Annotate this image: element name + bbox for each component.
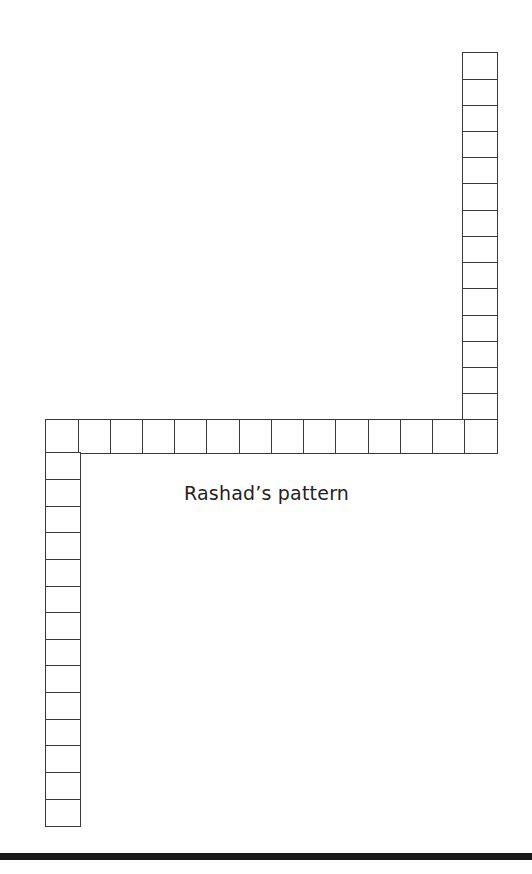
pattern-cell <box>462 393 497 421</box>
pattern-cell <box>462 315 497 343</box>
pattern-cell <box>45 532 80 560</box>
pattern-cell <box>174 419 208 453</box>
pattern-cell <box>45 799 80 827</box>
pattern-cell <box>45 506 80 534</box>
pattern-cell <box>335 419 369 453</box>
pattern-cell <box>462 105 497 133</box>
pattern-cell <box>45 419 79 453</box>
pattern-cell <box>462 236 497 264</box>
pattern-cell <box>303 419 337 453</box>
pattern-caption: Rashad’s pattern <box>184 482 349 504</box>
pattern-cell <box>45 719 80 747</box>
pattern-cell <box>462 52 497 80</box>
pattern-cell <box>78 419 112 453</box>
pattern-cell <box>45 586 80 614</box>
pattern-cell <box>45 665 80 693</box>
pattern-cell <box>462 131 497 159</box>
pattern-cell <box>142 419 176 453</box>
pattern-cell <box>368 419 402 453</box>
pattern-cell <box>206 419 240 453</box>
pattern-cell <box>45 745 80 773</box>
pattern-cell <box>462 183 497 211</box>
pattern-cell <box>462 157 497 185</box>
pattern-cell <box>239 419 273 453</box>
pattern-cell <box>432 419 466 453</box>
bottom-rule <box>0 853 532 860</box>
pattern-cell <box>462 210 497 238</box>
pattern-cell <box>400 419 434 453</box>
pattern-cell <box>45 639 80 667</box>
pattern-segment-horizontal-row <box>46 420 497 453</box>
pattern-cell <box>462 341 497 369</box>
pattern-cell <box>110 419 144 453</box>
pattern-cell <box>462 288 497 316</box>
pattern-cell <box>45 612 80 640</box>
pattern-cell <box>462 79 497 107</box>
pattern-segment-bottom-left-column <box>46 453 80 826</box>
pattern-cell <box>45 692 80 720</box>
pattern-cell <box>45 452 80 480</box>
worksheet-page: Rashad’s pattern <box>0 0 532 874</box>
pattern-cell <box>271 419 305 453</box>
pattern-segment-top-right-column <box>463 53 497 420</box>
pattern-cell <box>464 419 498 453</box>
pattern-cell <box>45 772 80 800</box>
pattern-cell <box>45 559 80 587</box>
pattern-cell <box>45 479 80 507</box>
pattern-cell <box>462 262 497 290</box>
pattern-cell <box>462 367 497 395</box>
